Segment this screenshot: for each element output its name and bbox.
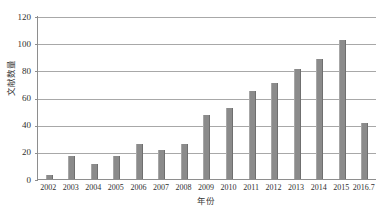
bar-slot xyxy=(38,16,61,179)
bar[interactable] xyxy=(271,83,278,179)
bar[interactable] xyxy=(91,164,98,179)
bar-slot xyxy=(331,16,354,179)
x-tick-label: 2014 xyxy=(307,183,330,193)
y-tick-mark xyxy=(35,126,38,127)
bar-slot xyxy=(196,16,219,179)
y-tick-label: 80 xyxy=(22,67,31,76)
x-tick-label: 2010 xyxy=(217,183,240,193)
y-tick-label: 40 xyxy=(22,121,31,130)
x-tick-label: 2003 xyxy=(60,183,83,193)
x-axis-tick-labels: 2002200320042005200620072008200920102011… xyxy=(37,183,375,193)
bar-slot xyxy=(106,16,129,179)
x-tick-label: 2006 xyxy=(127,183,150,193)
bar[interactable] xyxy=(249,91,256,179)
bar-chart: 文献数量 020406080100120 2002200320042005200… xyxy=(0,0,379,220)
y-tick-label: 120 xyxy=(18,13,32,22)
bar-slot xyxy=(218,16,241,179)
y-axis-tick-labels: 020406080100120 xyxy=(0,0,34,220)
bar[interactable] xyxy=(339,40,346,179)
y-tick-label: 20 xyxy=(22,148,31,157)
bar[interactable] xyxy=(113,156,120,179)
bar-slot xyxy=(151,16,174,179)
y-tick-label: 60 xyxy=(22,94,31,103)
x-tick-label: 2012 xyxy=(262,183,285,193)
x-tick-label: 2007 xyxy=(150,183,173,193)
bar[interactable] xyxy=(181,144,188,179)
x-axis-line xyxy=(38,179,376,180)
y-tick-label: 0 xyxy=(27,176,32,185)
y-tick-mark xyxy=(35,44,38,45)
x-tick-label: 2005 xyxy=(105,183,128,193)
bar[interactable] xyxy=(226,108,233,179)
bar-slot xyxy=(241,16,264,179)
bar[interactable] xyxy=(68,156,75,179)
bar-slot xyxy=(308,16,331,179)
bar[interactable] xyxy=(136,144,143,179)
bar[interactable] xyxy=(203,115,210,179)
bar[interactable] xyxy=(294,69,301,179)
bar-series xyxy=(38,16,376,179)
x-tick-label: 2002 xyxy=(37,183,60,193)
bar-slot xyxy=(286,16,309,179)
y-tick-label: 100 xyxy=(18,40,32,49)
bar-slot xyxy=(61,16,84,179)
bar-slot xyxy=(83,16,106,179)
x-tick-label: 2004 xyxy=(82,183,105,193)
x-tick-label: 2009 xyxy=(195,183,218,193)
x-tick-label: 2016.7 xyxy=(352,183,375,193)
bar-slot xyxy=(173,16,196,179)
y-tick-mark xyxy=(35,99,38,100)
y-tick-mark xyxy=(35,153,38,154)
x-tick-label: 2011 xyxy=(240,183,263,193)
y-tick-mark xyxy=(35,180,38,181)
bar[interactable] xyxy=(158,150,165,179)
bar[interactable] xyxy=(316,59,323,179)
bar-slot xyxy=(263,16,286,179)
bar-slot xyxy=(353,16,376,179)
y-tick-mark xyxy=(35,17,38,18)
x-axis-title: 年份 xyxy=(37,196,375,206)
bar-slot xyxy=(128,16,151,179)
x-tick-label: 2015 xyxy=(330,183,353,193)
bar[interactable] xyxy=(361,123,368,179)
plot-area xyxy=(37,16,375,180)
y-tick-mark xyxy=(35,71,38,72)
x-tick-label: 2008 xyxy=(172,183,195,193)
x-tick-label: 2013 xyxy=(285,183,308,193)
